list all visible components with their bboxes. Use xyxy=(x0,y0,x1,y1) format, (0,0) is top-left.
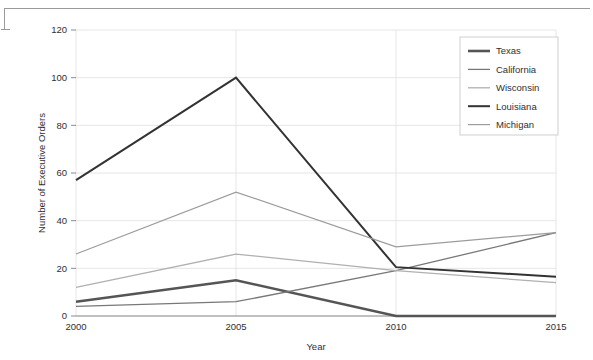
y-tick-label: 80 xyxy=(56,120,67,131)
legend-label-louisiana[interactable]: Louisiana xyxy=(496,101,537,112)
y-tick-label: 120 xyxy=(51,24,67,35)
x-tick-label: 2015 xyxy=(545,321,566,332)
series-line-california xyxy=(76,233,556,307)
legend-label-california[interactable]: California xyxy=(496,64,537,75)
y-tick-label: 0 xyxy=(62,310,67,321)
x-axis-title: Year xyxy=(306,341,325,352)
legend-label-wisconsin[interactable]: Wisconsin xyxy=(496,82,539,93)
legend-label-texas[interactable]: Texas xyxy=(496,45,521,56)
x-tick-label: 2000 xyxy=(65,321,86,332)
y-tick-label: 60 xyxy=(56,167,67,178)
line-chart-figure: 020406080100120 2000200520102015 Number … xyxy=(0,0,593,360)
x-tick-label: 2005 xyxy=(225,321,246,332)
legend-label-michigan[interactable]: Michigan xyxy=(496,119,534,130)
y-axis-tick-labels: 020406080100120 xyxy=(51,24,67,321)
series-line-michigan xyxy=(76,192,556,254)
tick-marks-group xyxy=(71,30,76,316)
y-tick-label: 20 xyxy=(56,263,67,274)
y-tick-label: 100 xyxy=(51,72,67,83)
series-line-wisconsin xyxy=(76,254,556,287)
y-tick-label: 40 xyxy=(56,215,67,226)
x-tick-label: 2010 xyxy=(385,321,406,332)
y-axis-title: Number of Executive Orders xyxy=(36,113,47,233)
chart-legend[interactable]: TexasCaliforniaWisconsinLouisianaMichiga… xyxy=(460,37,558,135)
chart-canvas: 020406080100120 2000200520102015 Number … xyxy=(0,0,593,360)
x-axis-tick-labels: 2000200520102015 xyxy=(65,321,566,332)
